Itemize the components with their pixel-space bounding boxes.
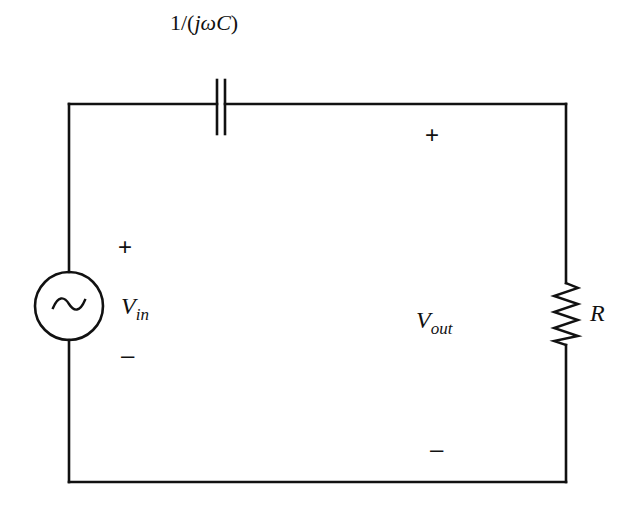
capacitor-icon xyxy=(217,80,225,134)
vout-minus-sign: – xyxy=(430,437,443,461)
ac-source-icon xyxy=(35,272,103,340)
vout-plus-sign: + xyxy=(425,123,439,147)
circuit-diagram xyxy=(0,0,631,513)
capacitor-impedance-label: 1/(jωC) xyxy=(170,12,238,34)
resistor-icon xyxy=(554,283,578,345)
vin-minus-sign: – xyxy=(121,343,134,367)
vin-plus-sign: + xyxy=(118,235,132,259)
resistor-label: R xyxy=(590,301,605,325)
vin-label: Vin xyxy=(121,294,149,318)
vout-label: Vout xyxy=(416,308,452,332)
